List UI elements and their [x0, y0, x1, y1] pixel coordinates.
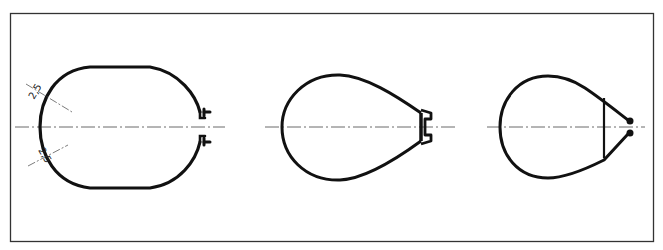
profile-teardrop-c-channel — [282, 75, 431, 180]
profile-oval-with-flanges — [40, 67, 210, 188]
bulb-tip-lower — [627, 130, 634, 137]
bulb-tip-upper — [627, 118, 634, 125]
drawing-frame — [11, 14, 654, 242]
dimension-label-upper: 2,5 — [26, 82, 43, 101]
technical-drawing: 2,5 2,5 — [0, 0, 663, 250]
dimension-label-lower: 2,5 — [36, 146, 53, 165]
